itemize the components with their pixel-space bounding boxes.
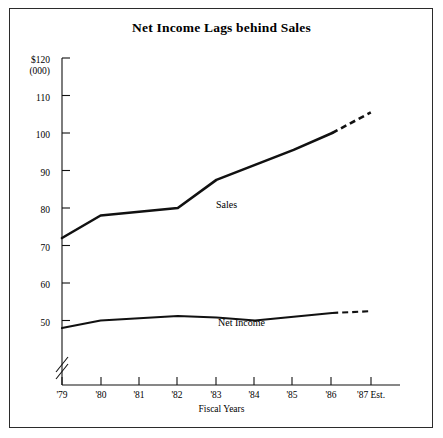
series-line-sales — [62, 133, 332, 238]
plot-area — [0, 0, 443, 438]
series-line-sales-estimate — [332, 112, 371, 133]
chart-figure: Net Income Lags behind Sales $120 (000) … — [0, 0, 443, 438]
x-tick-marks — [62, 377, 371, 385]
series-line-net-income-estimate — [332, 311, 371, 313]
y-tick-marks — [62, 58, 70, 321]
series-line-net-income — [62, 313, 332, 328]
